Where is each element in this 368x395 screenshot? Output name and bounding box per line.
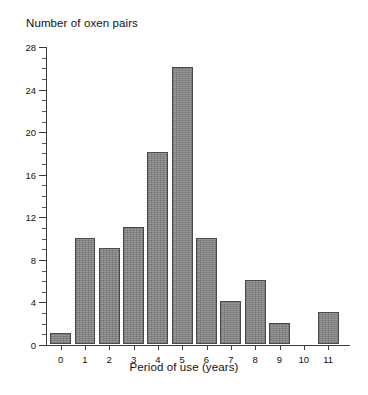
bar (318, 312, 339, 344)
x-tick (85, 345, 86, 350)
y-tick-major (39, 175, 46, 176)
bar (196, 238, 217, 344)
y-tick-minor (42, 79, 46, 80)
y-tick-major (39, 90, 46, 91)
plot-area: 0481216202428 01234567891011 (46, 47, 350, 345)
x-tick (280, 345, 281, 350)
bar (245, 280, 266, 344)
y-tick-minor (42, 239, 46, 240)
y-tick-major (39, 302, 46, 303)
x-tick (134, 345, 135, 350)
bar (123, 227, 144, 344)
x-axis-title: Period of use (years) (0, 361, 368, 373)
y-tick-minor (42, 313, 46, 314)
histogram-figure: Number of oxen pairs 0481216202428 01234… (0, 0, 368, 395)
x-tick (109, 345, 110, 350)
y-tick-major (39, 217, 46, 218)
y-tick-minor (42, 153, 46, 154)
y-tick-minor (42, 68, 46, 69)
y-tick-major (39, 47, 46, 48)
x-tick (328, 345, 329, 350)
y-tick-minor (42, 58, 46, 59)
y-tick-major (39, 345, 46, 346)
y-tick-major (39, 132, 46, 133)
y-tick-minor (42, 334, 46, 335)
y-tick-minor (42, 292, 46, 293)
y-tick-minor (42, 100, 46, 101)
x-tick (182, 345, 183, 350)
y-tick-minor (42, 228, 46, 229)
y-tick-minor (42, 111, 46, 112)
x-tick (158, 345, 159, 350)
y-tick-label: 28 (25, 42, 36, 53)
x-tick (231, 345, 232, 350)
bar (172, 67, 193, 344)
bar (75, 238, 96, 344)
y-tick-label: 8 (31, 254, 36, 265)
y-tick-minor (42, 185, 46, 186)
y-tick-minor (42, 196, 46, 197)
y-tick-major (39, 260, 46, 261)
x-tick (207, 345, 208, 350)
bar (50, 333, 71, 344)
y-tick-minor (42, 249, 46, 250)
y-tick-minor (42, 164, 46, 165)
y-tick-label: 4 (31, 297, 36, 308)
y-tick-label: 20 (25, 127, 36, 138)
y-tick-minor (42, 281, 46, 282)
y-axis-line (46, 47, 47, 346)
x-tick (255, 345, 256, 350)
bar (99, 248, 120, 344)
bar (220, 301, 241, 344)
y-tick-minor (42, 143, 46, 144)
bar (147, 152, 168, 344)
y-tick-minor (42, 122, 46, 123)
y-tick-label: 0 (31, 340, 36, 351)
y-tick-minor (42, 271, 46, 272)
y-tick-label: 24 (25, 84, 36, 95)
y-axis-title: Number of oxen pairs (26, 17, 138, 29)
bar (269, 323, 290, 344)
y-tick-label: 16 (25, 169, 36, 180)
y-tick-minor (42, 324, 46, 325)
x-tick (61, 345, 62, 350)
y-tick-label: 12 (25, 212, 36, 223)
y-tick-minor (42, 207, 46, 208)
x-tick (304, 345, 305, 350)
